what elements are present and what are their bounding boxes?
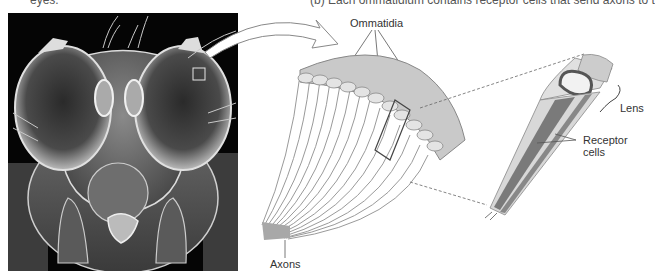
- label-receptor-cells-2: cells: [583, 146, 605, 158]
- label-axons: Axons: [270, 258, 301, 270]
- label-receptor-cells-1: Receptor: [583, 134, 628, 146]
- curved-arrow: [205, 20, 338, 58]
- label-ommatidia: Ommatidia: [350, 17, 403, 29]
- label-lens: Lens: [620, 102, 644, 114]
- lens-bracket: [600, 85, 620, 112]
